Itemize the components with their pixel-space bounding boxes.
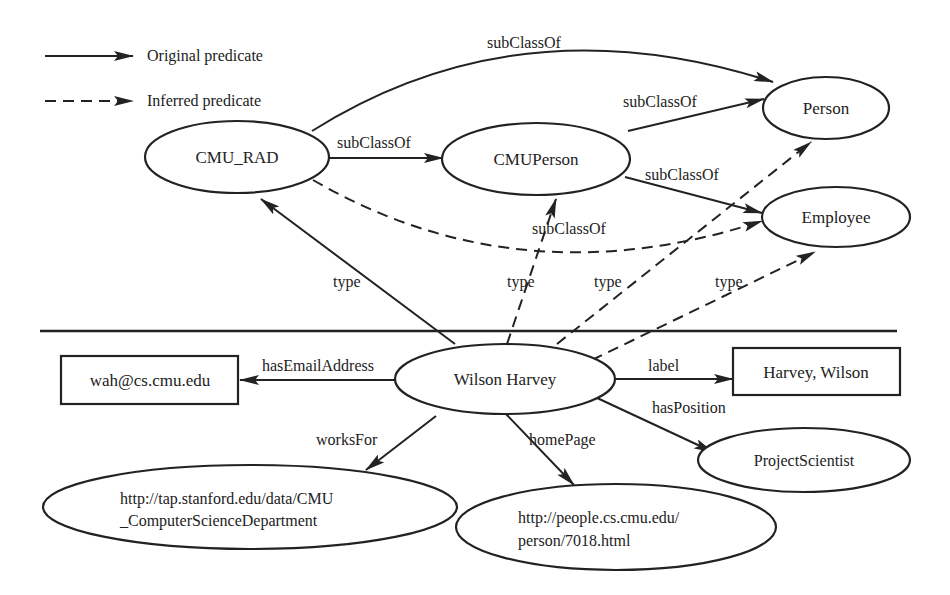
edge-label-rad-person: subClassOf [487,34,561,51]
node-label: ProjectScientist [754,452,855,470]
edge-home-page [506,414,574,485]
legend-inferred-label: Inferred predicate [147,92,261,110]
edge-label-works-for: worksFor [316,431,378,448]
node-label-line1: http://tap.stanford.edu/data/CMU [120,490,334,508]
node-cmu-person[interactable]: CMUPerson [442,123,630,195]
edge-label-label: label [648,357,680,374]
node-project-scientist[interactable]: ProjectScientist [698,428,910,492]
edge-label-home-page: homePage [529,431,596,449]
rdf-graph-diagram: Original predicate Inferred predicate su… [0,0,950,595]
legend-original: Original predicate [45,47,263,65]
node-label: Person [803,99,850,118]
edge-label-cmuperson-person: subClassOf [623,93,697,110]
node-cmu-rad[interactable]: CMU_RAD [145,121,329,193]
edge-label-wh-person: type [594,273,622,291]
edge-label-cmuperson-employee: subClassOf [645,166,719,183]
legend-original-label: Original predicate [147,47,263,65]
edge-wh-rad [261,199,455,344]
node-label-value[interactable]: Harvey, Wilson [733,348,900,395]
node-label: Employee [802,208,871,227]
node-label: Harvey, Wilson [763,363,869,382]
node-label-line2: _ComputerScienceDepartment [119,512,318,530]
edge-label-wh-employee: type [715,273,743,291]
edge-label-position: hasPosition [652,399,726,416]
edge-wh-employee [592,252,815,360]
edge-label-email: hasEmailAddress [262,357,374,374]
edge-rad-person [312,50,773,131]
node-label: CMUPerson [493,150,579,169]
node-label-line1: http://people.cs.cmu.edu/ [518,509,680,527]
node-label: wah@cs.cmu.edu [90,371,211,390]
node-label: Wilson Harvey [454,370,557,389]
node-wilson-harvey[interactable]: Wilson Harvey [395,344,615,414]
edge-label-wh-cmuperson: type [507,273,535,291]
node-label-line2: person/7018.html [518,532,631,550]
node-homepage[interactable]: http://people.cs.cmu.edu/ person/7018.ht… [456,484,776,570]
legend-inferred: Inferred predicate [45,92,261,110]
edge-label-wh-rad: type [333,273,361,291]
edge-label-rad-cmuperson: subClassOf [337,134,411,151]
node-email[interactable]: wah@cs.cmu.edu [61,356,238,404]
node-cs-department[interactable]: http://tap.stanford.edu/data/CMU _Comput… [43,465,457,549]
edges: subClassOf subClassOf subClassOf subClas… [240,34,815,485]
node-label: CMU_RAD [195,148,278,167]
node-person[interactable]: Person [763,77,889,139]
nodes: CMU_RAD CMUPerson Person Employee Wilson… [43,77,910,570]
legend: Original predicate Inferred predicate [45,47,263,110]
node-employee[interactable]: Employee [762,187,910,247]
